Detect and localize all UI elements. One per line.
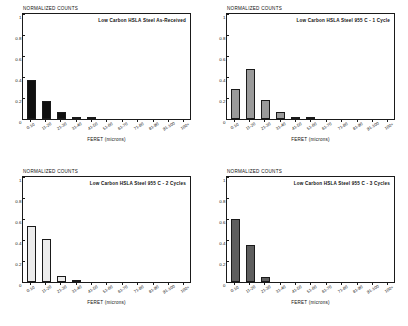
x-tick-label: 81-90 bbox=[352, 121, 364, 131]
x-tick: 41-50 bbox=[287, 283, 302, 301]
x-tick-label: 31-40 bbox=[71, 121, 83, 131]
bar-slot bbox=[114, 14, 129, 119]
x-tick-label: 41-50 bbox=[291, 284, 303, 294]
x-tick: 100+ bbox=[380, 120, 395, 138]
bar-slot bbox=[129, 14, 144, 119]
x-tick-label: 11-20 bbox=[245, 121, 256, 131]
plot-area: Low Carbon HSLA Steel 955 C - 1 Cycle10.… bbox=[226, 13, 395, 120]
bar-slot bbox=[174, 14, 189, 119]
x-tick: 81-90 bbox=[145, 283, 160, 301]
x-tick-mark bbox=[341, 283, 342, 285]
bar-slot bbox=[39, 177, 54, 282]
x-tick-label: 21-30 bbox=[56, 284, 68, 294]
bar-series bbox=[23, 177, 190, 282]
x-tick-label: 91-100 bbox=[366, 283, 380, 294]
x-tick: 61-70 bbox=[114, 120, 129, 138]
histogram-bar bbox=[42, 101, 52, 119]
x-tick-label: 11-20 bbox=[245, 284, 256, 294]
chart-panel-2: NORMALIZED COUNTSLow Carbon HSLA Steel 9… bbox=[204, 0, 408, 163]
x-tick: 21-30 bbox=[53, 120, 68, 138]
x-tick-label: 100+ bbox=[179, 284, 190, 293]
x-tick: 51-60 bbox=[303, 120, 318, 138]
bar-slot bbox=[243, 14, 258, 119]
x-tick-label: 31-40 bbox=[71, 284, 83, 294]
x-axis-label: FERET (microns) bbox=[226, 300, 395, 305]
bar-slot bbox=[258, 177, 273, 282]
bar-slot bbox=[114, 177, 129, 282]
x-tick-label: 91-100 bbox=[366, 120, 380, 131]
x-tick-mark bbox=[183, 283, 184, 285]
x-tick-label: 91-100 bbox=[162, 120, 176, 131]
x-tick: 71-80 bbox=[334, 283, 349, 301]
x-tick-mark bbox=[91, 283, 92, 285]
x-tick-label: 21-30 bbox=[260, 121, 272, 131]
bar-slot bbox=[363, 14, 378, 119]
x-tick-label: 0-10 bbox=[26, 284, 36, 293]
x-tick: 91-100 bbox=[160, 120, 175, 138]
bar-series bbox=[23, 14, 190, 119]
bar-slot bbox=[228, 177, 243, 282]
x-tick-label: 100+ bbox=[179, 121, 190, 130]
bar-slot bbox=[24, 177, 39, 282]
bar-slot bbox=[288, 14, 303, 119]
histogram-bar bbox=[246, 69, 256, 119]
x-tick-mark bbox=[137, 283, 138, 285]
x-tick-label: 71-80 bbox=[133, 121, 145, 131]
x-tick: 51-60 bbox=[303, 283, 318, 301]
x-tick: 11-20 bbox=[241, 283, 256, 301]
bar-slot bbox=[144, 177, 159, 282]
x-tick-label: 51-60 bbox=[306, 121, 318, 131]
histogram-figure-grid: NORMALIZED COUNTSLow Carbon HSLA Steel A… bbox=[0, 0, 408, 326]
x-axis-label: FERET (microns) bbox=[22, 300, 191, 305]
x-tick-label: 41-50 bbox=[87, 121, 99, 131]
histogram-bar bbox=[231, 89, 241, 119]
y-tick-label: 0.2 bbox=[15, 261, 23, 266]
x-tick-label: 61-70 bbox=[117, 284, 129, 294]
plot-area: Low Carbon HSLA Steel 955 C - 2 Cycles10… bbox=[22, 176, 191, 283]
bar-slot bbox=[54, 14, 69, 119]
x-tick: 81-90 bbox=[145, 120, 160, 138]
x-tick: 81-90 bbox=[349, 120, 364, 138]
y-tick-label: 0.8 bbox=[219, 198, 227, 203]
bar-slot bbox=[348, 177, 363, 282]
x-tick-label: 41-50 bbox=[87, 284, 99, 294]
y-axis-label: NORMALIZED COUNTS bbox=[227, 6, 282, 11]
bar-slot bbox=[99, 14, 114, 119]
x-tick-label: 61-70 bbox=[321, 284, 333, 294]
x-tick: 31-40 bbox=[68, 120, 83, 138]
x-tick-label: 81-90 bbox=[148, 284, 160, 294]
y-tick-label: 0.4 bbox=[15, 77, 23, 82]
x-tick: 21-30 bbox=[257, 283, 272, 301]
x-axis-label: FERET (microns) bbox=[226, 137, 395, 142]
x-tick-label: 21-30 bbox=[56, 121, 68, 131]
x-tick: 41-50 bbox=[83, 283, 98, 301]
x-tick-label: 71-80 bbox=[133, 284, 145, 294]
x-tick-label: 81-90 bbox=[148, 121, 160, 131]
bar-slot bbox=[318, 177, 333, 282]
y-tick-label: 0.6 bbox=[219, 219, 227, 224]
bar-slot bbox=[258, 14, 273, 119]
x-tick: 100+ bbox=[176, 283, 191, 301]
x-tick: 0-10 bbox=[226, 283, 241, 301]
x-tick: 91-100 bbox=[160, 283, 175, 301]
y-axis-label: NORMALIZED COUNTS bbox=[23, 6, 78, 11]
y-tick-label: 0.6 bbox=[15, 56, 23, 61]
chart-panel-4: NORMALIZED COUNTSLow Carbon HSLA Steel 9… bbox=[204, 163, 408, 326]
x-tick: 11-20 bbox=[37, 283, 52, 301]
x-tick: 71-80 bbox=[130, 120, 145, 138]
bar-slot bbox=[84, 14, 99, 119]
x-tick: 51-60 bbox=[99, 120, 114, 138]
x-tick-label: 31-40 bbox=[275, 121, 287, 131]
x-tick-label: 51-60 bbox=[102, 121, 114, 131]
chart-panel-3: NORMALIZED COUNTSLow Carbon HSLA Steel 9… bbox=[0, 163, 204, 326]
x-tick: 31-40 bbox=[272, 283, 287, 301]
x-tick-mark bbox=[183, 120, 184, 122]
x-tick-mark bbox=[45, 120, 46, 122]
histogram-bar bbox=[27, 226, 37, 282]
histogram-bar bbox=[72, 117, 82, 119]
x-tick-mark bbox=[295, 120, 296, 122]
x-tick: 61-70 bbox=[318, 120, 333, 138]
bar-slot bbox=[288, 177, 303, 282]
x-tick-label: 11-20 bbox=[41, 121, 52, 131]
x-tick-label: 0-10 bbox=[230, 284, 240, 293]
